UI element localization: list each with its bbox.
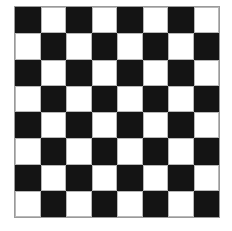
board-square-dark[interactable] — [168, 7, 194, 33]
board-square-dark[interactable] — [15, 165, 41, 191]
board-square-dark[interactable] — [66, 7, 92, 33]
board-square-dark[interactable] — [15, 112, 41, 138]
board-square-dark[interactable] — [92, 86, 118, 112]
board-square-light[interactable] — [143, 112, 169, 138]
board-square-light[interactable] — [117, 191, 143, 217]
board-square-light[interactable] — [168, 33, 194, 59]
board-square-light[interactable] — [15, 86, 41, 112]
board-square-light[interactable] — [41, 7, 67, 33]
board-square-light[interactable] — [15, 191, 41, 217]
board-square-dark[interactable] — [41, 138, 67, 164]
board-square-light[interactable] — [194, 165, 220, 191]
board-square-dark[interactable] — [92, 191, 118, 217]
board-square-light[interactable] — [168, 86, 194, 112]
board-square-dark[interactable] — [168, 60, 194, 86]
board-square-light[interactable] — [92, 60, 118, 86]
board-square-light[interactable] — [117, 86, 143, 112]
board-square-dark[interactable] — [41, 191, 67, 217]
board-square-light[interactable] — [92, 112, 118, 138]
board-square-dark[interactable] — [117, 112, 143, 138]
board-square-dark[interactable] — [117, 7, 143, 33]
board-square-light[interactable] — [41, 60, 67, 86]
board-square-dark[interactable] — [168, 165, 194, 191]
board-square-light[interactable] — [66, 86, 92, 112]
board-square-light[interactable] — [143, 60, 169, 86]
board-square-light[interactable] — [168, 191, 194, 217]
board-square-light[interactable] — [92, 165, 118, 191]
board-square-dark[interactable] — [41, 33, 67, 59]
board-square-dark[interactable] — [15, 60, 41, 86]
board-square-dark[interactable] — [194, 33, 220, 59]
board-square-dark[interactable] — [168, 112, 194, 138]
board-square-light[interactable] — [143, 165, 169, 191]
board-square-light[interactable] — [194, 7, 220, 33]
board-square-dark[interactable] — [117, 60, 143, 86]
checkerboard — [14, 6, 220, 218]
board-square-dark[interactable] — [66, 112, 92, 138]
board-square-light[interactable] — [66, 138, 92, 164]
board-square-light[interactable] — [117, 138, 143, 164]
board-square-dark[interactable] — [194, 86, 220, 112]
board-square-light[interactable] — [66, 33, 92, 59]
board-square-light[interactable] — [168, 138, 194, 164]
board-square-dark[interactable] — [194, 191, 220, 217]
board-square-light[interactable] — [15, 138, 41, 164]
board-square-dark[interactable] — [194, 138, 220, 164]
board-square-light[interactable] — [41, 112, 67, 138]
board-square-light[interactable] — [117, 33, 143, 59]
board-square-light[interactable] — [41, 165, 67, 191]
board-square-light[interactable] — [92, 7, 118, 33]
board-square-light[interactable] — [66, 191, 92, 217]
board-square-dark[interactable] — [143, 33, 169, 59]
board-square-dark[interactable] — [41, 86, 67, 112]
board-square-dark[interactable] — [66, 60, 92, 86]
board-square-light[interactable] — [143, 7, 169, 33]
board-square-dark[interactable] — [117, 165, 143, 191]
board-square-dark[interactable] — [143, 86, 169, 112]
board-square-light[interactable] — [15, 33, 41, 59]
board-square-dark[interactable] — [143, 138, 169, 164]
board-square-dark[interactable] — [15, 7, 41, 33]
board-square-dark[interactable] — [92, 33, 118, 59]
board-square-light[interactable] — [194, 60, 220, 86]
board-square-dark[interactable] — [66, 165, 92, 191]
board-square-dark[interactable] — [143, 191, 169, 217]
board-square-light[interactable] — [194, 112, 220, 138]
board-square-dark[interactable] — [92, 138, 118, 164]
